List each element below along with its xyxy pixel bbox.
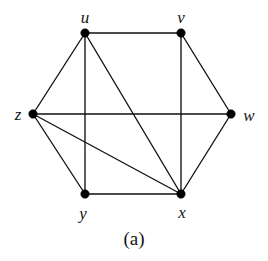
vertex-label-y: y <box>79 205 87 222</box>
vertex-label-u: u <box>81 9 90 26</box>
vertex-label-w: w <box>243 107 254 124</box>
graph-canvas <box>0 0 268 261</box>
graph-vertex-v <box>177 29 185 37</box>
graph-vertex-u <box>81 29 89 37</box>
vertex-label-x: x <box>178 204 186 221</box>
graph-vertex-x <box>177 190 185 198</box>
graph-vertex-y <box>81 190 89 198</box>
figure-caption: (a) <box>123 229 144 248</box>
graph-vertex-w <box>227 110 235 118</box>
graph-edge-y-z <box>33 114 85 194</box>
vertex-label-z: z <box>15 106 22 123</box>
graph-edge-w-x <box>181 114 231 194</box>
graph-edge-v-w <box>181 33 231 114</box>
graph-edge-z-x <box>33 114 181 194</box>
graph-edge-z-u <box>33 33 85 114</box>
graph-figure: uvwxyz (a) <box>0 0 268 261</box>
graph-vertex-z <box>29 110 37 118</box>
graph-edges-group <box>33 33 231 194</box>
vertex-label-v: v <box>177 9 185 26</box>
